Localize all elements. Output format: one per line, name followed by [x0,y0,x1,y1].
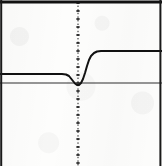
plot-figure [0,0,162,166]
plot-canvas [0,0,162,166]
